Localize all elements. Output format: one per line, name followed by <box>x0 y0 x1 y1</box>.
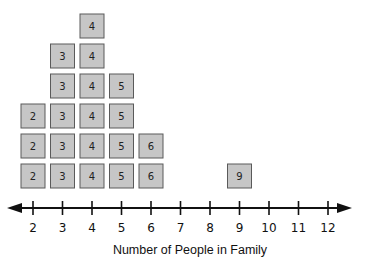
tick-label: 10 <box>261 221 276 235</box>
data-box-label: 4 <box>89 111 95 122</box>
data-box-label: 3 <box>59 141 65 152</box>
data-box-label: 9 <box>236 171 242 182</box>
data-box-label: 3 <box>59 81 65 92</box>
data-box-label: 3 <box>59 111 65 122</box>
data-boxes: 222333334444445555669 <box>21 14 252 188</box>
data-box-label: 5 <box>118 171 124 182</box>
data-box-label: 6 <box>148 171 154 182</box>
data-box-label: 2 <box>30 111 36 122</box>
data-box-label: 6 <box>148 141 154 152</box>
data-box-label: 2 <box>30 171 36 182</box>
data-box-label: 5 <box>118 81 124 92</box>
data-box-label: 4 <box>89 51 95 62</box>
axis-ticks: 23456789101112 <box>29 201 335 235</box>
tick-label: 12 <box>320 221 335 235</box>
data-box-label: 4 <box>89 81 95 92</box>
tick-label: 11 <box>291 221 306 235</box>
tick-label: 9 <box>236 221 244 235</box>
tick-label: 5 <box>118 221 126 235</box>
data-box-label: 5 <box>118 111 124 122</box>
tick-label: 7 <box>177 221 185 235</box>
data-box-label: 4 <box>89 171 95 182</box>
tick-label: 3 <box>59 221 67 235</box>
tick-label: 4 <box>88 221 96 235</box>
tick-label: 8 <box>206 221 214 235</box>
dot-plot-chart: 222333334444445555669 23456789101112 Num… <box>0 0 365 269</box>
tick-label: 6 <box>147 221 155 235</box>
right-arrow-icon <box>337 203 352 213</box>
tick-label: 2 <box>29 221 37 235</box>
data-box-label: 4 <box>89 141 95 152</box>
data-box-label: 4 <box>89 21 95 32</box>
data-box-label: 3 <box>59 171 65 182</box>
left-arrow-icon <box>7 203 22 213</box>
x-axis-label: Number of People in Family <box>113 243 268 257</box>
data-box-label: 3 <box>59 51 65 62</box>
data-box-label: 2 <box>30 141 36 152</box>
data-box-label: 5 <box>118 141 124 152</box>
